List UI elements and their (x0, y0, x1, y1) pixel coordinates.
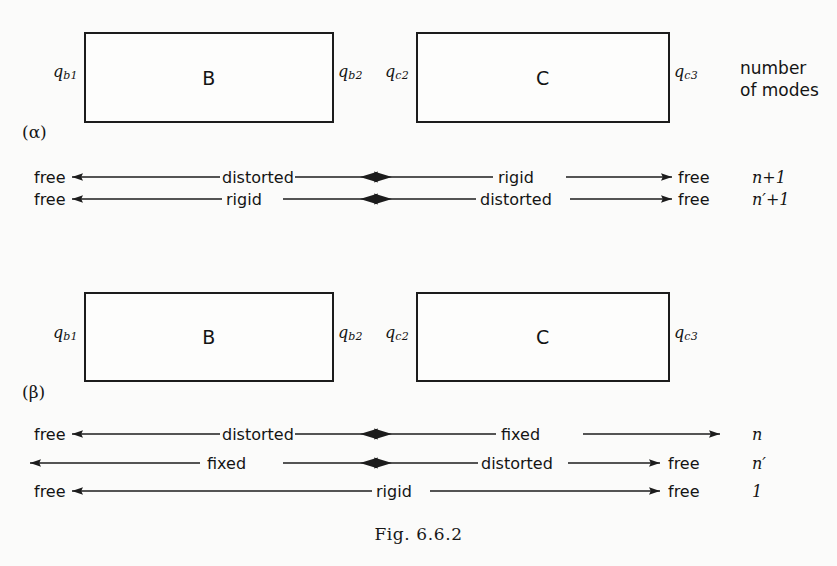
beta-port-qc3-sub: c3 (684, 330, 698, 343)
beta-row-3-start: free (34, 482, 66, 501)
beta-port-qc2: qc2 (385, 323, 409, 343)
beta-row-3-end: free (668, 482, 700, 501)
beta-port-qb1-symbol: q (53, 323, 63, 342)
beta-row-1-right-segment: fixed (501, 425, 540, 444)
beta-row-1-left-segment: distorted (222, 425, 294, 444)
beta-row-2-left-segment: fixed (207, 454, 246, 473)
beta-port-qc2-symbol: q (385, 323, 395, 342)
section-beta: (β) B qb1 qb2 C qc2 qc3 free distorted f… (0, 0, 837, 566)
beta-port-qb2-sub: b2 (348, 330, 363, 343)
beta-row-1: free distorted fixed n (0, 421, 837, 447)
beta-box-b-label: B (86, 326, 332, 348)
beta-box-c-label: C (418, 326, 668, 348)
beta-port-qb2: qb2 (338, 323, 363, 343)
beta-box-b: B (84, 292, 334, 382)
beta-port-qc3-symbol: q (674, 323, 684, 342)
beta-row-2-count: n′ (752, 454, 766, 473)
beta-row-2: fixed distorted free n′ (0, 450, 837, 476)
figure-canvas: (α) B qb1 qb2 C qc2 qc3 number of modes … (0, 0, 837, 566)
beta-port-qc3: qc3 (674, 323, 698, 343)
beta-row-2-right-segment: distorted (481, 454, 553, 473)
beta-row-3-count: 1 (752, 482, 762, 501)
beta-port-qb1: qb1 (53, 323, 78, 343)
section-beta-label: (β) (22, 382, 45, 402)
beta-port-qb1-sub: b1 (63, 330, 78, 343)
figure-caption: Fig. 6.6.2 (0, 524, 837, 544)
beta-row-3-right-segment: rigid (376, 482, 412, 501)
beta-row-2-end: free (668, 454, 700, 473)
beta-row-1-start: free (34, 425, 66, 444)
beta-row-1-count: n (752, 425, 762, 444)
beta-box-c: C (416, 292, 670, 382)
beta-port-qb2-symbol: q (338, 323, 348, 342)
beta-port-qc2-sub: c2 (395, 330, 409, 343)
beta-row-3: free rigid free 1 (0, 478, 837, 504)
